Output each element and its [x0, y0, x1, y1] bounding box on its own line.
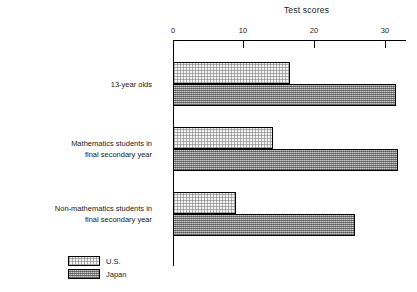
bar-japan-mathematics-students	[173, 149, 398, 171]
bar-us-mathematics-students	[173, 127, 273, 149]
category-label-mathematics-students: Mathematics students in final secondary …	[0, 138, 152, 160]
x-tick-label-0: 0	[171, 26, 175, 35]
x-tick-mark-10	[243, 41, 244, 48]
chart-title: Test scores	[0, 5, 417, 15]
legend-swatch-us	[68, 256, 100, 266]
category-label-line: Mathematics students in	[0, 138, 152, 149]
x-axis-line	[173, 40, 406, 41]
category-label-line: final secondary year	[0, 149, 152, 160]
bar-us-non-mathematics-students	[173, 192, 236, 214]
bar-chart: Test scores 0 10 20 30 13-year olds Math…	[0, 0, 417, 292]
x-tick-label-30: 30	[381, 26, 389, 35]
x-tick-label-20: 20	[310, 26, 318, 35]
bar-us-13-year-olds	[173, 62, 290, 84]
chart-legend: U.S. Japan	[68, 255, 126, 281]
x-tick-mark-30	[385, 41, 386, 48]
chart-title-text: Test scores	[284, 5, 329, 15]
category-label-non-mathematics-students: Non-mathematics students in final second…	[0, 203, 152, 225]
category-label-line: Non-mathematics students in	[0, 203, 152, 214]
bar-japan-non-mathematics-students	[173, 214, 355, 236]
legend-label-japan: Japan	[106, 270, 126, 279]
category-label-line: 13-year olds	[0, 79, 152, 90]
category-label-line: final secondary year	[0, 214, 152, 225]
legend-item-us: U.S.	[68, 255, 126, 267]
legend-swatch-japan	[68, 269, 100, 279]
x-tick-mark-0	[173, 41, 174, 48]
category-label-13-year-olds: 13-year olds	[0, 79, 152, 90]
legend-label-us: U.S.	[106, 257, 121, 266]
legend-item-japan: Japan	[68, 268, 126, 280]
x-tick-label-10: 10	[239, 26, 247, 35]
x-tick-mark-20	[314, 41, 315, 48]
bar-japan-13-year-olds	[173, 84, 396, 106]
